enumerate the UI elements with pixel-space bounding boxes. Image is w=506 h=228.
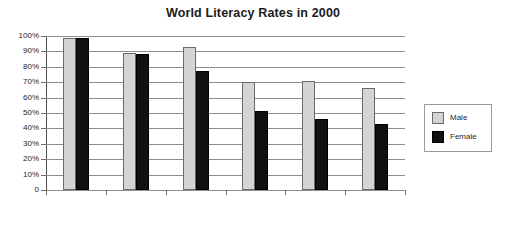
gridline: [46, 98, 405, 99]
x-axis-tick: [405, 190, 406, 195]
bar-female: [315, 119, 328, 190]
gridline: [46, 51, 405, 52]
x-axis-tick: [166, 190, 167, 195]
y-axis-label: 0: [35, 186, 39, 194]
legend-item-female: Female: [432, 131, 477, 143]
gridline: [46, 113, 405, 114]
y-axis-label: 70%: [23, 78, 39, 86]
x-axis-tick: [106, 190, 107, 195]
bar-female: [76, 38, 89, 190]
chart-title: World Literacy Rates in 2000: [0, 6, 506, 20]
y-axis-tick: [41, 98, 46, 99]
y-axis-label: 50%: [23, 109, 39, 117]
y-axis-tick: [41, 128, 46, 129]
y-axis-label: 30%: [23, 140, 39, 148]
bar-female: [136, 54, 149, 190]
bar-male: [362, 88, 375, 190]
y-axis-tick: [41, 82, 46, 83]
legend-label-female: Female: [450, 133, 477, 141]
y-axis-tick: [41, 67, 46, 68]
legend-swatch-female-icon: [432, 131, 444, 143]
bar-chart: World Literacy Rates in 2000 010%20%30%4…: [0, 0, 506, 228]
bar-male: [183, 47, 196, 190]
gridline: [46, 175, 405, 176]
y-axis-label: 100%: [19, 32, 39, 40]
legend-label-male: Male: [450, 114, 467, 122]
x-axis-tick: [345, 190, 346, 195]
gridline: [46, 82, 405, 83]
chart-legend: Male Female: [424, 104, 492, 152]
gridline: [46, 67, 405, 68]
y-axis-label: 90%: [23, 47, 39, 55]
bar-male: [302, 81, 315, 190]
y-axis-tick: [41, 113, 46, 114]
gridline: [46, 36, 405, 37]
bar-male: [63, 38, 76, 190]
legend-swatch-male-icon: [432, 112, 444, 124]
y-axis-label: 60%: [23, 94, 39, 102]
bar-male: [123, 53, 136, 190]
x-axis-tick: [285, 190, 286, 195]
y-axis-label: 10%: [23, 171, 39, 179]
plot-area: 010%20%30%40%50%60%70%80%90%100%Develope…: [46, 36, 405, 190]
x-axis-tick: [226, 190, 227, 195]
bar-male: [242, 82, 255, 190]
y-axis-label: 80%: [23, 63, 39, 71]
y-axis-tick: [41, 51, 46, 52]
bar-female: [375, 124, 388, 190]
bar-female: [255, 111, 268, 190]
y-axis-tick: [41, 175, 46, 176]
bar-female: [196, 71, 209, 190]
x-axis-tick: [46, 190, 47, 195]
gridline: [46, 128, 405, 129]
y-axis-tick: [41, 36, 46, 37]
gridline: [46, 144, 405, 145]
y-axis-label: 20%: [23, 155, 39, 163]
y-axis-tick: [41, 144, 46, 145]
gridline: [46, 159, 405, 160]
legend-item-male: Male: [432, 112, 467, 124]
y-axis-tick: [41, 159, 46, 160]
y-axis-label: 40%: [23, 124, 39, 132]
